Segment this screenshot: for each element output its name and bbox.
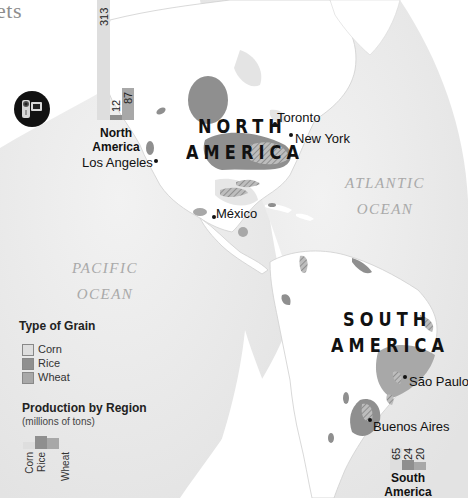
- legend-production-subtitle: (millions of tons): [22, 416, 95, 427]
- legend-mini-label-corn: Corn: [24, 452, 35, 476]
- city-marker-sao-paulo: [403, 375, 407, 379]
- page-title-fragment: ets: [0, 0, 22, 24]
- city-label-new-york: New York: [295, 131, 350, 146]
- legend-mini-label-rice: Rice: [36, 452, 47, 476]
- city-label-toronto: Toronto: [277, 110, 320, 125]
- city-marker-buenos-aires: [368, 418, 372, 422]
- city-marker-new-york: [289, 133, 293, 137]
- ocean-label-pacific: PACIFIC OCEAN: [50, 255, 160, 307]
- bar-label-line1: South: [378, 471, 438, 485]
- legend-mini-bar-corn: [23, 442, 35, 449]
- city-label-los-angeles: Los Angeles: [82, 155, 153, 170]
- bar-south-america-wheat: [414, 462, 426, 470]
- ocean-line2: OCEAN: [50, 281, 160, 307]
- legend-swatch-corn: [22, 344, 34, 356]
- legend-swatch-wheat: [22, 372, 34, 384]
- bar-south-america-rice: [402, 460, 414, 470]
- value-south-america-wheat: 20: [414, 448, 426, 460]
- value-north-america-wheat: 87: [122, 92, 134, 104]
- ocean-line1: PACIFIC: [50, 255, 160, 281]
- legend-label-corn: Corn: [38, 343, 62, 355]
- bar-label-south-america: South America: [378, 471, 438, 498]
- city-marker-los-angeles: [154, 159, 158, 163]
- bar-label-line1: North: [86, 126, 146, 140]
- legend-mini-bar-rice: [35, 436, 47, 449]
- legend-mini-bar-wheat: [47, 438, 59, 449]
- video-camera-glyph: [14, 91, 50, 127]
- city-label-sao-paulo: São Paulo: [409, 374, 468, 389]
- value-south-america-rice: 24: [402, 448, 414, 460]
- bar-north-america-rice: [110, 115, 122, 120]
- region-line2: AMERICA: [331, 332, 449, 358]
- ocean-line1: ATLANTIC: [330, 170, 440, 196]
- city-label-buenos-aires: Buenos Aires: [373, 419, 450, 434]
- legend-swatch-rice: [22, 358, 34, 370]
- ocean-line2: OCEAN: [330, 196, 440, 222]
- value-south-america-corn: 65: [390, 448, 402, 460]
- bar-label-line2: America: [86, 140, 146, 154]
- region-label-south-america: SOUTH AMERICA: [331, 306, 449, 358]
- legend-label-rice: Rice: [38, 357, 60, 369]
- value-north-america-rice: 12: [110, 100, 122, 112]
- ocean-label-atlantic: ATLANTIC OCEAN: [330, 170, 440, 222]
- city-label-mexico: México: [216, 206, 257, 221]
- region-line2: AMERICA: [186, 139, 304, 165]
- bar-label-line2: America: [378, 485, 438, 498]
- video-camera-icon[interactable]: [14, 91, 50, 127]
- region-line1: SOUTH: [331, 306, 449, 332]
- legend-production-title: Production by Region: [22, 401, 147, 415]
- value-north-america-corn: 313: [98, 8, 110, 26]
- bar-label-north-america: North America: [86, 126, 146, 154]
- legend-label-wheat: Wheat: [38, 371, 70, 383]
- legend-mini-label-wheat: Wheat: [60, 452, 71, 488]
- legend-grain-title: Type of Grain: [19, 319, 95, 333]
- grain-production-map: ets 313 12 87 North America NORTH AMERIC…: [0, 0, 468, 498]
